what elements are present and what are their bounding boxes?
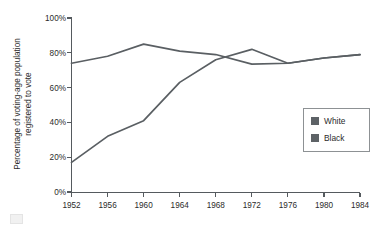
y-tick-label-80: 80% <box>50 49 66 58</box>
y-axis-title-line-2: registered to vote <box>24 72 33 136</box>
y-tick-label-40: 40% <box>50 118 66 127</box>
legend-item-black[interactable]: Black <box>311 133 345 143</box>
y-tick-label-60: 60% <box>50 84 66 93</box>
corner-artifact <box>10 214 23 224</box>
x-axis <box>72 193 361 198</box>
y-axis-title-line-1: Percentage of voting-age population <box>13 38 22 170</box>
y-axis-tick-labels: 100% 80% 60% 40% 20% 0% <box>45 14 66 197</box>
legend: White Black <box>304 109 370 152</box>
legend-swatch-white <box>311 117 319 125</box>
x-tick-label-1984: 1984 <box>351 201 370 210</box>
line-chart: Percentage of voting-age population regi… <box>0 0 375 228</box>
x-tick-label-1952: 1952 <box>62 201 81 210</box>
x-tick-label-1980: 1980 <box>315 201 334 210</box>
legend-label-white: White <box>324 116 346 126</box>
x-tick-label-1960: 1960 <box>134 201 153 210</box>
x-tick-label-1964: 1964 <box>171 201 190 210</box>
x-tick-label-1956: 1956 <box>98 201 117 210</box>
y-axis-title: Percentage of voting-age population regi… <box>13 38 33 170</box>
y-tick-label-0: 0% <box>54 188 66 197</box>
y-tick-label-100: 100% <box>45 14 66 23</box>
x-tick-label-1968: 1968 <box>207 201 226 210</box>
x-axis-tick-labels: 1952 1956 1960 1964 1968 1972 1976 1980 … <box>62 201 369 210</box>
legend-swatch-black <box>311 134 319 142</box>
chart-figure: Percentage of voting-age population regi… <box>0 0 375 228</box>
y-axis <box>67 18 72 192</box>
legend-label-black: Black <box>324 133 345 143</box>
legend-box <box>304 109 370 152</box>
x-tick-label-1972: 1972 <box>243 201 262 210</box>
legend-item-white[interactable]: White <box>311 116 346 126</box>
x-tick-label-1976: 1976 <box>279 201 298 210</box>
series-line-white <box>72 44 361 64</box>
y-tick-label-20: 20% <box>50 153 66 162</box>
